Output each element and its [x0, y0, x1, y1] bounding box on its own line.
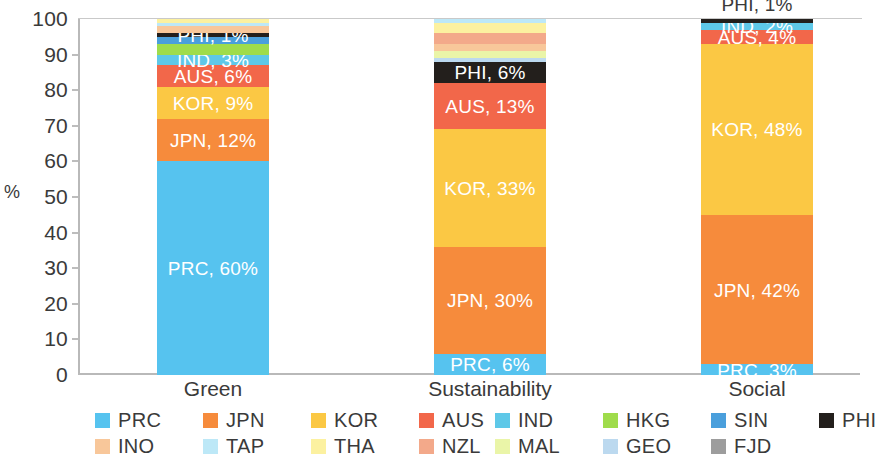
legend-label-sin: SIN — [734, 410, 768, 430]
legend-swatch-geo — [603, 439, 618, 454]
x-tick-label-social: Social — [647, 378, 867, 400]
segment-label-aus: AUS, 4% — [701, 27, 813, 46]
legend-label-nzl: NZL — [442, 436, 481, 456]
bar-segment-phi[interactable]: PHI, 1% — [157, 33, 269, 37]
legend-swatch-ind — [495, 413, 510, 428]
legend-label-ino: INO — [118, 436, 154, 456]
y-tick-label-20: 20 — [44, 293, 68, 314]
legend-label-phi: PHI — [842, 410, 876, 430]
legend-item-hkg[interactable]: HKG — [603, 410, 670, 430]
legend-swatch-nzl — [419, 439, 434, 454]
bar-segment-kor[interactable]: KOR, 33% — [434, 129, 546, 246]
bar-segment-prc[interactable]: PRC, 6% — [434, 354, 546, 375]
legend-item-ino[interactable]: INO — [95, 436, 154, 456]
bar-segment-jpn[interactable]: JPN, 30% — [434, 247, 546, 354]
legend-item-tap[interactable]: TAP — [203, 436, 264, 456]
bar-segment-kor[interactable]: KOR, 48% — [701, 44, 813, 215]
legend-item-jpn[interactable]: JPN — [203, 410, 265, 430]
bar-segment-prc[interactable]: PRC, 3% — [701, 364, 813, 375]
y-tick-label-30: 30 — [44, 257, 68, 278]
legend-swatch-tap — [203, 439, 218, 454]
x-tick-label-sustainability: Sustainability — [380, 378, 600, 400]
legend-item-kor[interactable]: KOR — [311, 410, 378, 430]
bar-segment-aus[interactable]: AUS, 6% — [157, 65, 269, 86]
bar-sustainability[interactable]: PRC, 6%JPN, 30%KOR, 33%AUS, 13%PHI, 6% — [434, 19, 546, 375]
bar-segment-nzl[interactable] — [434, 33, 546, 44]
bar-segment-ind[interactable]: IND, 3% — [157, 55, 269, 66]
legend-label-tap: TAP — [226, 436, 264, 456]
x-tick-label-green: Green — [103, 378, 323, 400]
bar-segment-tap[interactable] — [157, 23, 269, 27]
bar-segment-tha[interactable] — [157, 19, 269, 23]
y-tick-label-10: 10 — [44, 328, 68, 349]
bar-segment-tha[interactable] — [434, 23, 546, 34]
segment-label-kor: KOR, 48% — [701, 120, 813, 139]
y-axis-title: % — [4, 182, 20, 203]
legend-item-geo[interactable]: GEO — [603, 436, 671, 456]
legend-label-hkg: HKG — [626, 410, 670, 430]
legend-item-sin[interactable]: SIN — [711, 410, 768, 430]
bar-segment-geo[interactable] — [434, 58, 546, 62]
legend-swatch-phi — [819, 413, 834, 428]
bar-social[interactable]: PRC, 3%JPN, 42%KOR, 48%AUS, 4%IND, 2%PHI… — [701, 19, 813, 375]
legend-item-ind[interactable]: IND — [495, 410, 553, 430]
legend-item-phi[interactable]: PHI — [819, 410, 876, 430]
y-tick-label-100: 100 — [32, 8, 68, 29]
legend-item-fjd[interactable]: FJD — [711, 436, 772, 456]
bar-segment-sin[interactable] — [157, 37, 269, 44]
legend-swatch-sin — [711, 413, 726, 428]
legend-swatch-fjd — [711, 439, 726, 454]
bar-segment-ino[interactable] — [157, 26, 269, 33]
bar-segment-ind[interactable]: IND, 2% — [701, 23, 813, 30]
y-tick-label-50: 50 — [44, 186, 68, 207]
legend-label-mal: MAL — [518, 436, 560, 456]
y-tick-label-0: 0 — [56, 364, 68, 385]
y-tick-label-80: 80 — [44, 79, 68, 100]
bar-segment-mal[interactable] — [434, 51, 546, 58]
bar-green[interactable]: PRC, 60%JPN, 12%KOR, 9%AUS, 6%IND, 3%PHI… — [157, 19, 269, 375]
legend-label-aus: AUS — [442, 410, 484, 430]
legend-item-nzl[interactable]: NZL — [419, 436, 481, 456]
segment-label-phi: PHI, 6% — [434, 63, 546, 82]
segment-label-kor: KOR, 33% — [434, 179, 546, 198]
bar-segment-phi[interactable]: PHI, 1% — [701, 19, 813, 23]
bar-segment-kor[interactable]: KOR, 9% — [157, 87, 269, 119]
segment-label-phi: PHI, 1% — [701, 0, 813, 14]
legend-item-aus[interactable]: AUS — [419, 410, 484, 430]
legend-label-fjd: FJD — [734, 436, 772, 456]
bar-segment-aus[interactable]: AUS, 4% — [701, 30, 813, 44]
legend-swatch-aus — [419, 413, 434, 428]
bar-segment-ino[interactable] — [434, 44, 546, 51]
segment-label-aus: AUS, 6% — [157, 66, 269, 85]
bar-segment-hkg[interactable] — [157, 44, 269, 55]
bar-segment-jpn[interactable]: JPN, 42% — [701, 215, 813, 365]
legend-item-tha[interactable]: THA — [311, 436, 375, 456]
legend-item-prc[interactable]: PRC — [95, 410, 161, 430]
legend-label-kor: KOR — [334, 410, 378, 430]
bar-segment-phi[interactable]: PHI, 6% — [434, 62, 546, 83]
legend-label-jpn: JPN — [226, 410, 265, 430]
bar-segment-jpn[interactable]: JPN, 12% — [157, 119, 269, 162]
y-tick-label-70: 70 — [44, 115, 68, 136]
legend-swatch-jpn — [203, 413, 218, 428]
legend-label-ind: IND — [518, 410, 553, 430]
segment-label-jpn: JPN, 12% — [157, 131, 269, 150]
segment-label-jpn: JPN, 42% — [701, 280, 813, 299]
legend-swatch-tha — [311, 439, 326, 454]
segment-label-prc: PRC, 6% — [434, 355, 546, 374]
segment-label-prc: PRC, 60% — [157, 259, 269, 278]
y-tick-label-90: 90 — [44, 44, 68, 65]
legend-swatch-ino — [95, 439, 110, 454]
legend-label-tha: THA — [334, 436, 375, 456]
legend-label-geo: GEO — [626, 436, 671, 456]
bar-segment-prc[interactable]: PRC, 60% — [157, 161, 269, 375]
bar-segment-tap[interactable] — [434, 19, 546, 23]
y-tick-label-40: 40 — [44, 222, 68, 243]
bar-segment-aus[interactable]: AUS, 13% — [434, 83, 546, 129]
segment-label-aus: AUS, 13% — [434, 97, 546, 116]
segment-label-jpn: JPN, 30% — [434, 291, 546, 310]
legend-swatch-mal — [495, 439, 510, 454]
legend-swatch-prc — [95, 413, 110, 428]
legend-item-mal[interactable]: MAL — [495, 436, 560, 456]
